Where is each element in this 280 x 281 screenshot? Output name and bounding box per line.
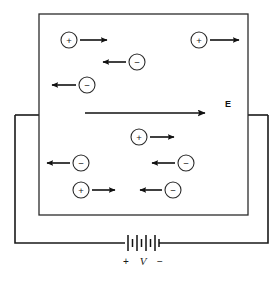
charge-sign: − <box>84 80 90 91</box>
charge-sign: + <box>66 35 72 46</box>
charge-sign: − <box>170 185 176 196</box>
charge-sign: + <box>136 132 142 143</box>
charge-carrier-negative-3: − <box>47 155 89 171</box>
battery-voltage-label: V <box>140 255 148 267</box>
circuit-diagram-figure: + V − E + + − − <box>0 0 280 281</box>
charge-carrier-negative-2: − <box>52 77 95 93</box>
charge-sign: − <box>183 158 189 169</box>
charge-carrier-positive-1: + <box>61 32 107 48</box>
charge-carrier-negative-5: − <box>140 182 181 198</box>
charge-sign: + <box>78 185 84 196</box>
charge-sign: − <box>78 158 84 169</box>
charge-carrier-positive-3: + <box>131 129 174 145</box>
charge-carrier-positive-4: + <box>73 182 115 198</box>
charge-sign: − <box>134 57 140 68</box>
diagram-canvas: + V − E + + − − <box>0 0 280 281</box>
charge-sign: + <box>196 35 202 46</box>
charge-carrier-negative-4: − <box>152 155 194 171</box>
battery-symbol <box>128 235 159 251</box>
electric-field-label: E <box>225 99 231 109</box>
charge-carrier-positive-2: + <box>191 32 239 48</box>
battery-negative-terminal-sign: − <box>157 256 163 267</box>
charge-carrier-negative-1: − <box>103 54 145 70</box>
battery-positive-terminal-sign: + <box>123 256 129 267</box>
